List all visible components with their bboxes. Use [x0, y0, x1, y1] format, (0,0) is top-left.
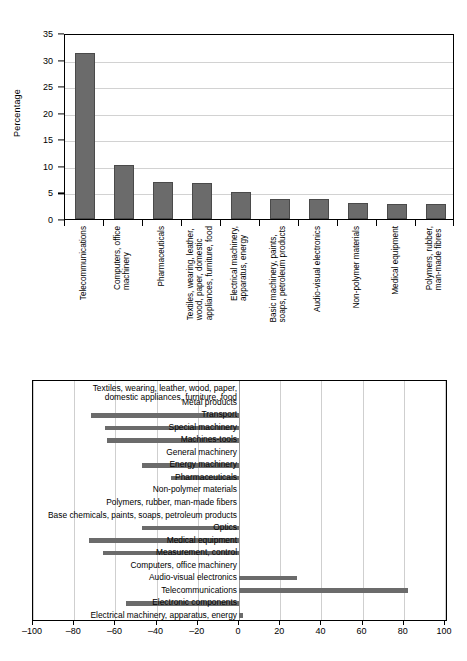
gridline: [363, 381, 364, 620]
x-tick-label: 0: [235, 626, 240, 636]
bar: [309, 199, 329, 219]
category-label: Special machinery: [32, 423, 237, 432]
bar: [231, 192, 251, 219]
x-axis-label-line: machinery: [123, 226, 132, 290]
category-label-line: Transport: [32, 411, 237, 420]
y-axis-ticks: 05101520253035: [0, 34, 64, 220]
category-label-line: Medical equipment: [32, 536, 237, 545]
bar: [239, 576, 297, 581]
zero-line: [239, 381, 240, 620]
x-axis-label-line: Polymers, rubber,: [425, 226, 434, 290]
top-x-axis-labels: TelecommunicationsComputers, officemachi…: [64, 226, 454, 344]
bottom-x-axis: –100–80–60–40–20020406080100: [32, 621, 447, 627]
top-bar-chart: Percentage 05101520253035 Telecommunicat…: [0, 0, 467, 345]
bar: [387, 204, 407, 219]
bar: [270, 199, 290, 219]
category-label: Base chemicals, paints, soaps, petroleum…: [32, 511, 237, 520]
category-label-line: Special machinery: [32, 423, 237, 432]
category-label-line: Machines-tools: [32, 436, 237, 445]
x-axis-label: Audio-visual electronics: [313, 226, 322, 312]
category-label-line: Non-polymer materials: [32, 486, 237, 495]
bar: [426, 204, 446, 219]
gridline: [65, 88, 453, 89]
x-axis-label-line: Audio-visual electronics: [313, 226, 322, 312]
x-axis-label: Pharmaceuticals: [157, 226, 166, 287]
y-tick-label: 0: [48, 215, 53, 225]
x-axis-label-line: man-made fibres: [435, 226, 444, 290]
x-tick-mark: [156, 621, 157, 625]
x-axis-label-line: soaps, petroleum products: [279, 226, 288, 322]
figure-page: Percentage 05101520253035 Telecommunicat…: [0, 0, 467, 661]
x-tick-label: –60: [107, 626, 122, 636]
x-tick-label: –80: [66, 626, 81, 636]
x-axis-label-line: appliances, furniture, food: [205, 226, 214, 320]
category-label: Metal products: [32, 398, 237, 407]
category-label-line: Computers, office machinery: [32, 561, 237, 570]
x-axis-label-line: Medical equipment: [391, 226, 400, 295]
category-label-line: Base chemicals, paints, soaps, petroleum…: [32, 511, 237, 520]
x-tick-label: 20: [274, 626, 284, 636]
x-axis-label: Polymers, rubber,man-made fibres: [425, 226, 444, 290]
x-tick-label: 40: [315, 626, 325, 636]
x-axis-label-line: Telecommunications: [79, 226, 88, 300]
x-tick-label: 60: [357, 626, 367, 636]
category-label: Transport: [32, 411, 237, 420]
category-label: Medical equipment: [32, 536, 237, 545]
category-label-line: Optics: [32, 523, 237, 532]
x-tick-mark: [73, 621, 74, 625]
x-tick-mark: [279, 621, 280, 625]
category-label-line: Audio-visual electronics: [32, 574, 237, 583]
x-tick-label: 100: [436, 626, 451, 636]
category-label-line: Electrical machinery, apparatus, energy: [32, 611, 237, 620]
y-tick-label: 10: [43, 162, 53, 172]
x-tick-label: –40: [148, 626, 163, 636]
gridline: [404, 381, 405, 620]
x-tick-mark: [320, 621, 321, 625]
category-label-line: Measurement, control: [32, 548, 237, 557]
x-tick-mark: [32, 621, 33, 625]
x-axis-label-line: Electrical machinery,: [230, 226, 239, 301]
category-label: Electronic components: [32, 599, 237, 608]
category-label: Audio-visual electronics: [32, 574, 237, 583]
category-label: Polymers, rubber, man-made fibers: [32, 498, 237, 507]
gridline: [321, 381, 322, 620]
x-tick-mark: [444, 621, 445, 625]
category-label: Machines-tools: [32, 436, 237, 445]
bottom-bar-chart: Textiles, wearing, leather, wood, paper,…: [0, 375, 467, 661]
category-label-line: Telecommunications: [32, 586, 237, 595]
x-tick-label: –100: [22, 626, 42, 636]
x-axis-label-line: Non-polymer materials: [352, 226, 361, 308]
bar: [239, 613, 243, 618]
bar: [348, 203, 368, 219]
gridline: [65, 141, 453, 142]
bar: [192, 183, 212, 219]
y-tick-label: 20: [43, 109, 53, 119]
category-label: Measurement, control: [32, 548, 237, 557]
gridline: [445, 381, 446, 620]
x-axis-label-line: Pharmaceuticals: [157, 226, 166, 287]
x-axis-label: Telecommunications: [79, 226, 88, 300]
gridline: [65, 115, 453, 116]
x-axis-label: Medical equipment: [391, 226, 400, 295]
category-label: Pharmaceuticals: [32, 473, 237, 482]
category-label: Energy machinery: [32, 461, 237, 470]
x-axis-label: Textiles, wearing, leather,wood, paper, …: [186, 226, 214, 320]
x-axis-label: Computers, officemachinery: [113, 226, 132, 290]
x-axis-label-line: Basic machinery, paints,: [269, 226, 278, 322]
y-tick-label: 25: [43, 82, 53, 92]
category-label-line: Metal products: [32, 398, 237, 407]
x-axis-label: Non-polymer materials: [352, 226, 361, 308]
category-label: Telecommunications: [32, 586, 237, 595]
bottom-plot-area: Textiles, wearing, leather, wood, paper,…: [32, 380, 447, 621]
x-axis-label: Electrical machinery,apparatus, energy: [230, 226, 249, 301]
category-label-line: General machinery: [32, 448, 237, 457]
x-tick-label: 80: [398, 626, 408, 636]
x-tick-mark: [362, 621, 363, 625]
x-tick-label: –20: [189, 626, 204, 636]
x-tick-mark: [238, 621, 239, 625]
category-label: General machinery: [32, 448, 237, 457]
bar: [153, 182, 173, 219]
category-label: Computers, office machinery: [32, 561, 237, 570]
x-axis-label-line: Textiles, wearing, leather,: [186, 226, 195, 320]
gridline: [280, 381, 281, 620]
